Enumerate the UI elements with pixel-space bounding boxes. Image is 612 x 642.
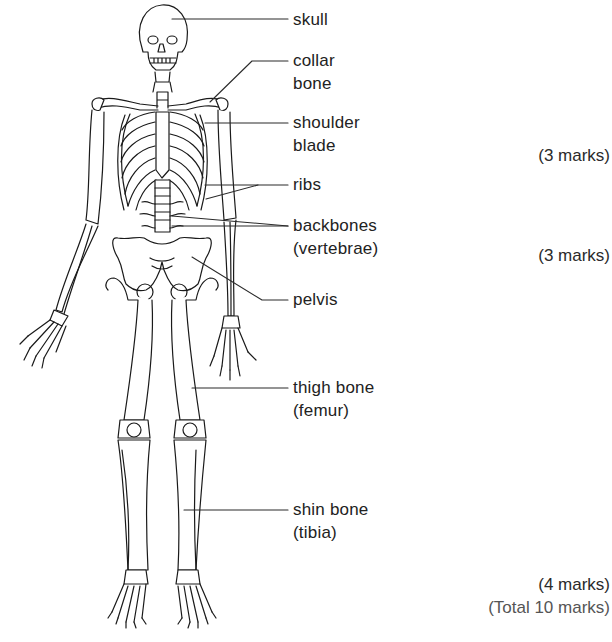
left-arm-drawing bbox=[20, 110, 104, 368]
feet-drawing bbox=[108, 570, 216, 628]
marks-part-a: (3 marks) bbox=[538, 144, 610, 167]
skull-drawing bbox=[139, 5, 187, 92]
leader-collar-bone bbox=[210, 61, 288, 102]
tibia-drawing bbox=[118, 440, 206, 570]
label-text: collar bbox=[293, 49, 335, 72]
right-arm-drawing bbox=[210, 110, 256, 380]
label-text: skull bbox=[293, 8, 328, 31]
marks-part-c: (4 marks) bbox=[538, 573, 610, 596]
label-ribs: ribs bbox=[293, 173, 321, 196]
marks-total: (Total 10 marks) bbox=[488, 596, 610, 619]
label-text: blade bbox=[293, 134, 360, 157]
skeleton-illustration bbox=[0, 0, 612, 642]
label-pelvis: pelvis bbox=[293, 288, 338, 311]
label-text: ribs bbox=[293, 173, 321, 196]
label-text: backbones bbox=[293, 214, 378, 237]
leader-pelvis bbox=[192, 257, 288, 300]
label-backbones: backbones (vertebrae) bbox=[293, 214, 378, 260]
label-skull: skull bbox=[293, 8, 328, 31]
femur-drawing bbox=[106, 278, 218, 420]
label-text: thigh bone bbox=[293, 376, 374, 399]
label-thigh-bone: thigh bone (femur) bbox=[293, 376, 374, 422]
pelvis-drawing bbox=[113, 237, 212, 300]
label-text: (vertebrae) bbox=[293, 237, 378, 260]
label-text: bone bbox=[293, 72, 335, 95]
marks-part-b: (3 marks) bbox=[538, 244, 610, 267]
label-text: (tibia) bbox=[293, 521, 369, 544]
label-shoulder-blade: shoulder blade bbox=[293, 111, 360, 157]
label-text: shin bone bbox=[293, 498, 369, 521]
label-text: shoulder bbox=[293, 111, 360, 134]
knee-drawing bbox=[118, 420, 206, 438]
label-text: (femur) bbox=[293, 399, 374, 422]
label-shin-bone: shin bone (tibia) bbox=[293, 498, 369, 544]
label-text: pelvis bbox=[293, 288, 338, 311]
label-collar-bone: collar bone bbox=[293, 49, 335, 95]
